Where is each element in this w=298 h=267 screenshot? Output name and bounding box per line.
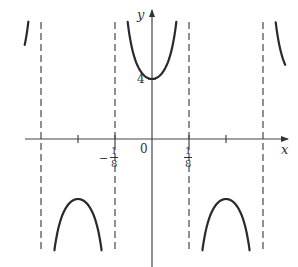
x-axis-label: x [281,143,288,156]
curve-branches [25,22,285,251]
secant-graph [0,0,298,267]
curve-branch [54,199,101,250]
curve-branch [202,199,249,250]
curve-branch [25,22,29,45]
y-axis-label: y [137,8,144,21]
frac-denominator: 8 [110,158,118,169]
y-tick-label-4: 4 [137,73,145,85]
frac-numerator: 1 [110,146,118,158]
x-tick-label-one-eighth: 1 8 [184,146,192,169]
frac-denominator: 8 [184,158,192,169]
axes [25,10,288,267]
x-tick-label-neg-one-eighth: 1 8 [110,146,118,169]
x-tick-label-neg-sign: − [99,153,108,164]
origin-label: 0 [140,143,148,155]
frac-numerator: 1 [184,146,192,158]
curve-branch [276,22,285,65]
